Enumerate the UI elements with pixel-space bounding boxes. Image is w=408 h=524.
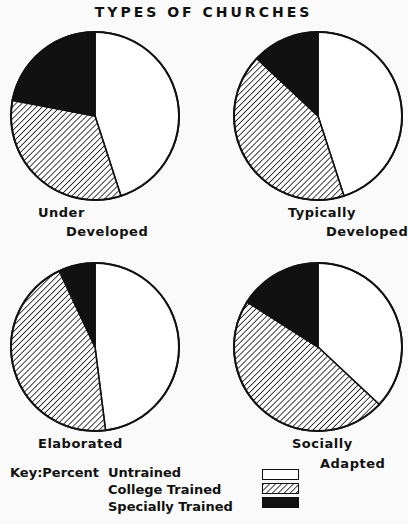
label-elaborated: Elaborated <box>38 436 123 451</box>
label-under-developed-line1: Under <box>38 205 85 220</box>
pie-under-developed <box>11 32 179 200</box>
legend-swatch-college-trained <box>262 483 299 494</box>
pie-typically-developed <box>234 32 402 200</box>
pie-socially-adapted <box>234 263 402 431</box>
slice-specially-trained <box>12 32 95 116</box>
label-typically-developed-line1: Typically <box>288 205 356 220</box>
legend-label-untrained: Untrained <box>108 465 181 480</box>
pie-elaborated <box>11 263 179 431</box>
legend-label-specially-trained: Specially Trained <box>108 499 233 514</box>
label-socially-adapted-line1: Socially <box>292 436 353 451</box>
label-under-developed-line2: Developed <box>66 224 148 239</box>
legend-label-college-trained: College Trained <box>108 482 221 497</box>
legend-title: Key:Percent <box>10 465 99 480</box>
legend-swatch-specially-trained <box>262 497 299 508</box>
legend-swatch-untrained <box>262 469 299 480</box>
label-socially-adapted-line2: Adapted <box>320 456 385 471</box>
label-typically-developed-line2: Developed <box>326 224 408 239</box>
slice-untrained <box>95 263 179 430</box>
